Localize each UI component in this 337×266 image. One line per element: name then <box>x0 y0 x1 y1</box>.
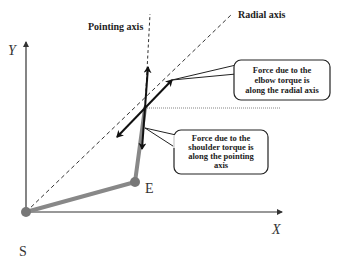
radial-axis-label: Radial axis <box>238 9 286 20</box>
upper-arm <box>26 182 135 212</box>
elbow-label: E <box>145 181 154 196</box>
shoulder-label: S <box>19 244 27 259</box>
shoulder-callout-line-4: axis <box>214 160 229 170</box>
elbow-callout-line-1: Force due to the <box>253 65 312 75</box>
shoulder-torque-callout: Force due to the shoulder torque is alon… <box>145 128 268 174</box>
elbow-torque-callout: Force due to the elbow torque is along t… <box>172 60 330 100</box>
elbow-callout-line-3: along the radial axis <box>245 85 319 95</box>
arm-torque-diagram: Y X Radial axis Pointing axis S E Force … <box>0 0 337 266</box>
x-axis-label: X <box>271 222 281 237</box>
y-axis-label: Y <box>8 43 18 58</box>
elbow-joint <box>130 177 140 187</box>
elbow-callout-line-2: elbow torque is <box>254 75 310 85</box>
shoulder-joint <box>21 207 31 217</box>
pointing-axis-label: Pointing axis <box>88 21 143 32</box>
